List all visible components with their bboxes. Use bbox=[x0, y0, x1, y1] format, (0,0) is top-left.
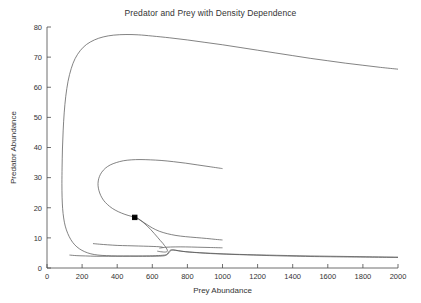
figure-container: Predator and Prey with Density Dependenc… bbox=[0, 0, 421, 303]
x-axis-title: Prey Abundance bbox=[193, 286, 252, 295]
y-tick-label: 30 bbox=[34, 173, 42, 182]
plot-canvas: 0200400600800100012001400160018002000010… bbox=[0, 0, 421, 303]
y-tick-label: 0 bbox=[38, 264, 42, 273]
curve-outer-trajectory bbox=[62, 35, 398, 258]
x-tick-label: 1000 bbox=[214, 272, 231, 281]
y-tick-label: 60 bbox=[34, 83, 42, 92]
x-tick-label: 1200 bbox=[249, 272, 266, 281]
curves-group bbox=[62, 35, 398, 258]
equilibrium-point bbox=[133, 215, 137, 219]
x-tick-label: 1600 bbox=[319, 272, 336, 281]
x-tick-label: 2000 bbox=[390, 272, 407, 281]
x-tick-label: 1800 bbox=[355, 272, 372, 281]
y-tick-label: 50 bbox=[34, 113, 42, 122]
curve-lower-left-trajectory bbox=[93, 244, 163, 248]
y-tick-label: 20 bbox=[34, 204, 42, 213]
x-tick-label: 200 bbox=[76, 272, 89, 281]
y-tick-label: 40 bbox=[34, 143, 42, 152]
curve-lower-right-trajectory bbox=[159, 247, 222, 248]
x-tick-label: 400 bbox=[111, 272, 124, 281]
curve-upper-inflow-trajectory bbox=[135, 217, 223, 240]
x-tick-label: 800 bbox=[181, 272, 194, 281]
y-tick-label: 10 bbox=[34, 234, 42, 243]
x-tick-label: 600 bbox=[146, 272, 159, 281]
x-tick-label: 0 bbox=[45, 272, 49, 281]
markers-group bbox=[133, 215, 137, 219]
y-tick-label: 70 bbox=[34, 53, 42, 62]
x-tick-label: 1400 bbox=[284, 272, 301, 281]
y-axis-title: Predator Abundance bbox=[9, 110, 18, 183]
y-tick-label: 80 bbox=[34, 23, 42, 32]
